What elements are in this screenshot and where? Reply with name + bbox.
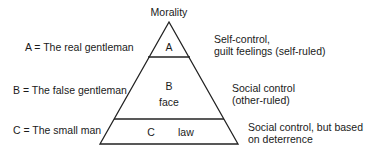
tier-a-left-label: A = The real gentleman xyxy=(25,41,134,53)
pyramid-title: Morality xyxy=(139,6,199,18)
tier-a-right-label-line1: Self-control, xyxy=(214,33,270,45)
tier-c-right-label-line2: on deterrence xyxy=(248,133,313,145)
tier-b-right-label-line2: (other-ruled) xyxy=(232,94,290,106)
tier-a-right-label-line2: guilt feelings (self-ruled) xyxy=(214,45,325,57)
tier-c-left-label: C = The small man xyxy=(13,124,101,136)
tier-c-inner-text: law xyxy=(178,126,194,138)
tier-c-right-label-line1: Social control, but based xyxy=(248,121,363,133)
tier-b-letter: B xyxy=(159,80,179,92)
tier-b-left-label: B = The false gentleman xyxy=(13,84,127,96)
tier-b-right-label-line1: Social control xyxy=(232,82,295,94)
tier-a-letter: A xyxy=(159,41,179,53)
tier-b-inner-text: face xyxy=(149,96,189,108)
tier-c-letter: C xyxy=(141,126,161,138)
